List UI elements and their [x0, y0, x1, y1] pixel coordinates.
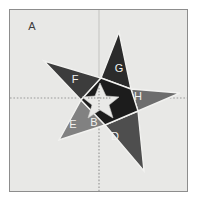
label-f: F [72, 73, 79, 85]
figure-frame: A F G H E B D [9, 9, 188, 192]
label-e: E [69, 118, 76, 130]
figure-root: A F G H E B D [0, 0, 197, 202]
label-b: B [90, 116, 97, 128]
label-d: D [111, 130, 119, 142]
star-diagram-svg: A F G H E B D [10, 10, 187, 191]
label-g: G [115, 62, 124, 74]
label-a: A [28, 20, 36, 32]
label-h: H [134, 90, 142, 102]
